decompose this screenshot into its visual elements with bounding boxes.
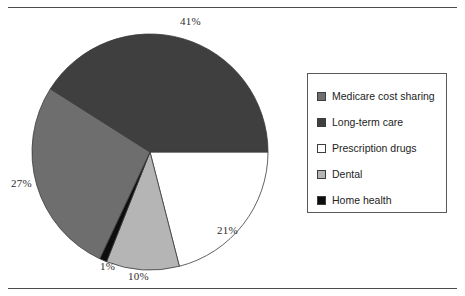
legend-item-label: Home health xyxy=(332,195,392,206)
legend-item-3[interactable]: Dental xyxy=(317,161,446,187)
legend-item-2[interactable]: Prescription drugs xyxy=(317,135,446,161)
pie-chart-figure: 41% 27% 21% 10% 1% Medicare cost sharing… xyxy=(0,0,465,296)
legend-swatch-icon xyxy=(317,170,326,179)
pie-label-home-health: 1% xyxy=(100,260,115,272)
legend-box: Medicare cost sharingLong-term carePresc… xyxy=(307,73,447,213)
legend-swatch-icon xyxy=(317,144,326,153)
pie-label-prescription-drugs: 21% xyxy=(217,224,238,236)
legend-item-label: Long-term care xyxy=(332,117,403,128)
legend-swatch-icon xyxy=(317,196,326,205)
legend-item-label: Prescription drugs xyxy=(332,143,417,154)
legend-swatch-icon xyxy=(317,118,326,127)
legend-item-1[interactable]: Long-term care xyxy=(317,109,446,135)
pie-label-long-term-care: 41% xyxy=(180,15,201,27)
legend-item-4[interactable]: Home health xyxy=(317,187,446,213)
legend-item-0[interactable]: Medicare cost sharing xyxy=(317,83,446,109)
pie-label-medicare-cost-sharing: 27% xyxy=(11,177,32,189)
pie-label-dental: 10% xyxy=(128,270,149,282)
legend-item-label: Medicare cost sharing xyxy=(332,91,435,102)
legend-item-label: Dental xyxy=(332,169,362,180)
legend-swatch-icon xyxy=(317,92,326,101)
